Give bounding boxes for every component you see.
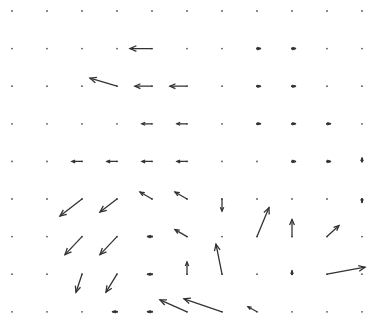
- vector-arrow: [100, 199, 117, 212]
- grid-point: [186, 48, 188, 50]
- vector-arrow: [142, 122, 152, 125]
- grid-point: [256, 273, 258, 275]
- vector-arrow: [90, 77, 117, 86]
- grid-point: [46, 236, 48, 238]
- vector-arrow: [135, 84, 152, 89]
- vector-arrow: [257, 123, 260, 125]
- vector-arrow: [327, 160, 330, 162]
- grid-point: [11, 48, 13, 50]
- vector-arrow: [148, 311, 152, 313]
- grid-point: [11, 85, 13, 87]
- grid-point: [81, 311, 83, 313]
- grid-point: [151, 10, 153, 12]
- grid-point: [116, 123, 118, 125]
- vector-arrows: [60, 46, 365, 313]
- vector-arrow: [327, 123, 330, 125]
- vector-arrow: [170, 84, 187, 89]
- vector-arrow: [220, 199, 223, 211]
- vector-arrow: [292, 47, 295, 49]
- vector-arrow: [106, 274, 117, 292]
- vector-arrow: [257, 208, 269, 237]
- arrow-shaft: [327, 226, 339, 237]
- vector-arrow: [185, 262, 188, 274]
- grid-point: [11, 236, 13, 238]
- arrow-shaft: [106, 274, 117, 292]
- vector-arrow: [148, 273, 152, 275]
- grid-point: [326, 48, 328, 50]
- grid-point: [11, 311, 13, 313]
- grid-point: [326, 198, 328, 200]
- arrow-shaft: [100, 237, 117, 255]
- vector-arrow: [214, 244, 222, 274]
- grid-point: [81, 10, 83, 12]
- grid-point: [11, 123, 13, 125]
- vector-arrow: [177, 160, 187, 163]
- grid-point: [11, 198, 13, 200]
- grid-point: [221, 10, 223, 12]
- grid-point: [326, 10, 328, 12]
- vector-arrow: [292, 85, 295, 87]
- grid-point: [46, 311, 48, 313]
- vector-arrow: [327, 226, 339, 237]
- grid-point: [291, 10, 293, 12]
- grid-point: [81, 48, 83, 50]
- grid-point: [81, 85, 83, 87]
- vector-arrow: [291, 271, 293, 274]
- grid-point: [326, 85, 328, 87]
- vector-arrow: [65, 237, 82, 255]
- vector-arrow: [184, 298, 222, 312]
- vector-arrow: [290, 220, 295, 237]
- vector-arrow: [148, 235, 152, 237]
- vector-arrow: [327, 266, 365, 275]
- grid-point: [361, 311, 363, 313]
- vector-arrow: [75, 274, 82, 292]
- vector-arrow: [175, 230, 187, 237]
- grid-point: [81, 123, 83, 125]
- vector-arrow: [257, 85, 260, 87]
- grid-point: [361, 123, 363, 125]
- grid-point: [256, 161, 258, 163]
- arrow-shaft: [184, 299, 222, 312]
- grid-point: [186, 10, 188, 12]
- grid-point: [291, 198, 293, 200]
- vector-arrow: [292, 160, 295, 162]
- vector-arrow: [361, 158, 363, 161]
- vector-arrow: [248, 307, 257, 312]
- vector-arrow: [361, 199, 363, 202]
- grid-point: [221, 236, 223, 238]
- grid-point: [11, 161, 13, 163]
- vector-arrow: [113, 311, 117, 313]
- grid-point: [326, 311, 328, 313]
- vector-arrow: [175, 192, 187, 199]
- grid-point: [46, 161, 48, 163]
- vector-arrow: [160, 300, 187, 312]
- grid-point: [256, 198, 258, 200]
- grid-point: [221, 161, 223, 163]
- grid-point: [46, 273, 48, 275]
- grid-point: [361, 273, 363, 275]
- quiver-plot: [0, 0, 374, 332]
- vector-arrow: [130, 46, 152, 52]
- grid-point: [221, 123, 223, 125]
- grid-point: [256, 10, 258, 12]
- grid-point: [361, 48, 363, 50]
- grid-point: [46, 123, 48, 125]
- grid-point: [46, 85, 48, 87]
- vector-arrow: [257, 47, 260, 49]
- arrow-shaft: [60, 199, 82, 216]
- grid-point: [361, 10, 363, 12]
- vector-arrow: [60, 199, 82, 216]
- vector-arrow: [177, 122, 187, 125]
- grid-point: [116, 48, 118, 50]
- grid-point: [291, 311, 293, 313]
- arrow-shaft: [160, 300, 187, 312]
- vector-arrow: [72, 160, 82, 163]
- grid-point: [221, 85, 223, 87]
- arrow-shaft: [65, 237, 82, 255]
- vector-arrow: [292, 123, 295, 125]
- grid-point: [46, 10, 48, 12]
- grid-point: [361, 236, 363, 238]
- grid-point: [361, 85, 363, 87]
- arrow-shaft: [100, 199, 117, 212]
- grid-point: [11, 273, 13, 275]
